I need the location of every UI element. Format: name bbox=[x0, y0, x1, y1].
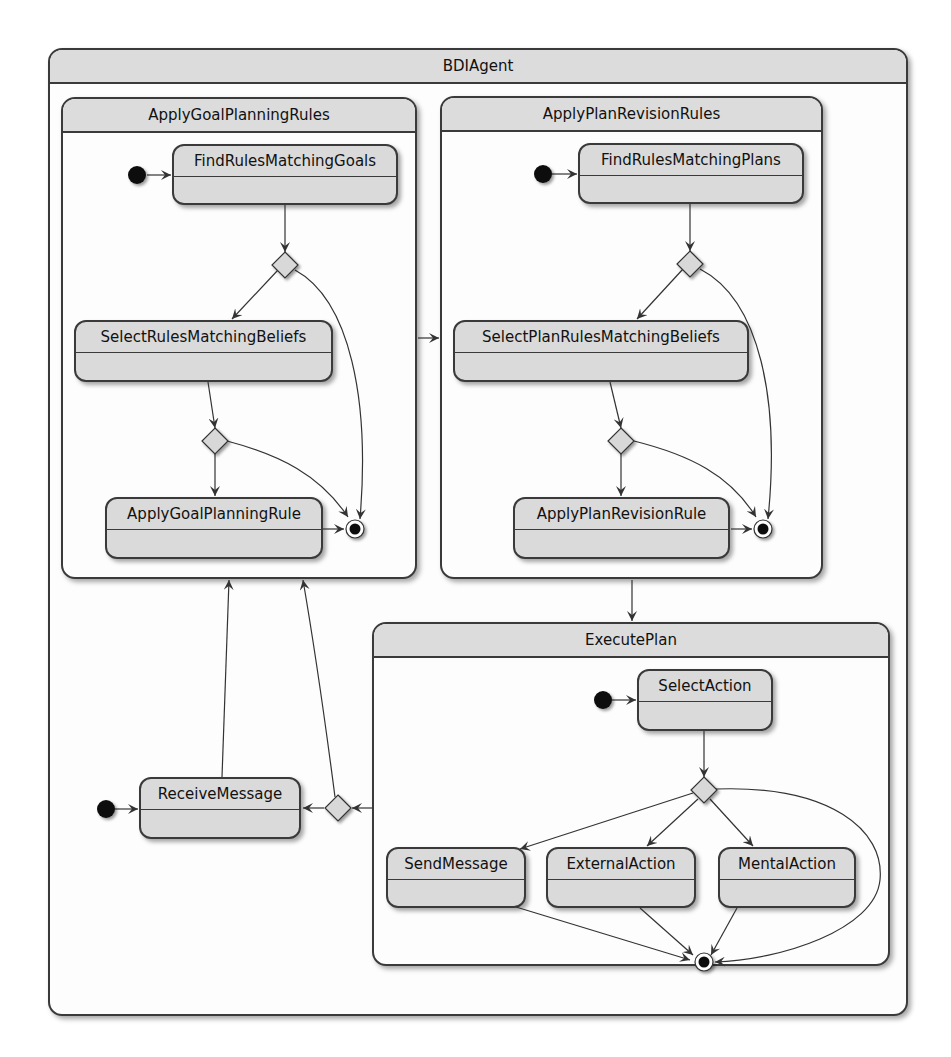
state-label: FindRulesMatchingGoals bbox=[174, 146, 396, 177]
state-label: MentalAction bbox=[720, 849, 854, 880]
state-select-plan-rules-matching-beliefs: SelectPlanRulesMatchingBeliefs bbox=[453, 320, 749, 382]
composite-title: ExecutePlan bbox=[374, 624, 888, 658]
state-apply-plan-revision-rule: ApplyPlanRevisionRule bbox=[513, 497, 730, 559]
composite-title: ApplyPlanRevisionRules bbox=[442, 98, 821, 132]
state-find-rules-matching-goals: FindRulesMatchingGoals bbox=[172, 144, 398, 205]
state-label: SendMessage bbox=[388, 849, 524, 880]
state-find-rules-matching-plans: FindRulesMatchingPlans bbox=[578, 143, 804, 204]
state-label: ApplyGoalPlanningRule bbox=[107, 499, 321, 530]
state-label: ExternalAction bbox=[548, 849, 694, 880]
state-select-action: SelectAction bbox=[637, 669, 773, 731]
state-label: FindRulesMatchingPlans bbox=[580, 145, 802, 176]
state-label: ReceiveMessage bbox=[141, 779, 299, 810]
state-mental-action: MentalAction bbox=[718, 847, 856, 908]
state-send-message: SendMessage bbox=[386, 847, 526, 908]
state-apply-goal-planning-rule: ApplyGoalPlanningRule bbox=[105, 497, 323, 559]
state-select-rules-matching-beliefs: SelectRulesMatchingBeliefs bbox=[74, 320, 333, 382]
state-receive-message: ReceiveMessage bbox=[139, 777, 301, 839]
state-label: ApplyPlanRevisionRule bbox=[515, 499, 728, 530]
state-label: SelectRulesMatchingBeliefs bbox=[76, 322, 331, 353]
state-label: SelectPlanRulesMatchingBeliefs bbox=[455, 322, 747, 353]
composite-title: BDIAgent bbox=[50, 50, 906, 84]
composite-title: ApplyGoalPlanningRules bbox=[63, 99, 415, 133]
state-external-action: ExternalAction bbox=[546, 847, 696, 908]
state-label: SelectAction bbox=[639, 671, 771, 702]
composite-execute-plan: ExecutePlan bbox=[372, 622, 890, 966]
